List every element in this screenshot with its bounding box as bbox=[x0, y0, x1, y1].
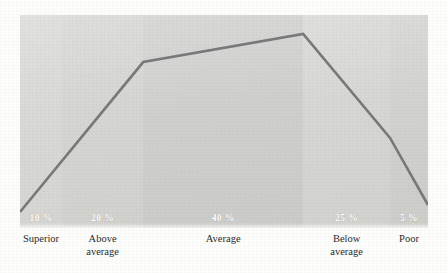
distribution-line bbox=[20, 15, 428, 228]
percent-label-above-average: 20 % bbox=[62, 213, 143, 223]
percent-label-average: 40 % bbox=[143, 213, 303, 223]
category-label-row: SuperiorAbove averageAverageBelow averag… bbox=[20, 232, 428, 272]
data-line-path bbox=[20, 34, 428, 212]
category-label-average: Average bbox=[143, 232, 303, 245]
category-label-above-average: Above average bbox=[62, 232, 143, 258]
category-label-poor: Poor bbox=[374, 232, 444, 245]
chart-figure: 10 %20 %40 %25 %5 % SuperiorAbove averag… bbox=[0, 0, 448, 273]
plot-area: 10 %20 %40 %25 %5 % bbox=[20, 15, 428, 228]
percent-label-below-average: 25 % bbox=[303, 213, 390, 223]
percent-label-superior: 10 % bbox=[20, 213, 62, 223]
plot-bottom-fade bbox=[20, 223, 428, 228]
percent-label-poor: 5 % bbox=[390, 213, 428, 223]
